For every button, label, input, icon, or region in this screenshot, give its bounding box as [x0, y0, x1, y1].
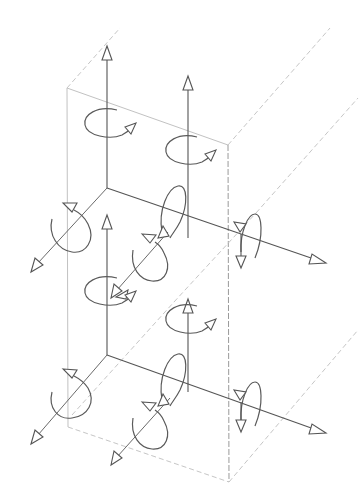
- upper-col2-out-axis: [117, 232, 168, 290]
- arrow-right-icon: [309, 424, 326, 434]
- back-edge-bottom-left-b: [256, 98, 358, 213]
- upper-translation-right-axis: [107, 188, 314, 259]
- arrow-up-icon: [183, 76, 193, 90]
- back-edge-top-right: [228, 28, 330, 145]
- arrow-up-icon: [102, 46, 112, 60]
- diagram-canvas: [0, 0, 364, 501]
- upper-rotation-out-arc: [51, 210, 91, 252]
- lower-col2-rotation-out-arc: [132, 410, 167, 449]
- lower-node-triad: [31, 215, 326, 444]
- back-edge-bottom-left-a: [72, 302, 174, 415]
- lower-translation-out-axis: [38, 355, 107, 435]
- rotation-arrowhead-icon: [142, 234, 156, 243]
- rotation-arrowhead-icon: [158, 394, 169, 406]
- arrow-up-icon: [102, 215, 112, 229]
- back-edge-top-left: [67, 28, 120, 88]
- upper-col2-rotation-out-arc: [132, 242, 167, 281]
- arrow-right-small-icon: [234, 390, 246, 400]
- rotation-arrowhead-icon: [142, 402, 156, 411]
- arrow-down-left-icon: [31, 430, 43, 444]
- arrow-right-icon: [309, 254, 326, 264]
- upper-col2-rotation-vertical-arc: [166, 136, 213, 164]
- arrow-right-small-icon: [234, 222, 246, 232]
- front-face-right-edge: [228, 145, 229, 482]
- upper-node-triad: [31, 46, 326, 272]
- lower-edge-rotation: [234, 382, 261, 432]
- front-face-bottom-edge: [68, 427, 229, 482]
- dof-diagram: [0, 0, 364, 501]
- arrow-down-icon: [236, 256, 246, 268]
- lower-col2-out-axis: [117, 398, 170, 457]
- upper-rotation-vertical-arc: [85, 109, 133, 137]
- lower-node-column-2: [111, 299, 216, 465]
- lower-translation-right-axis: [107, 355, 314, 429]
- arrow-down-icon: [236, 420, 246, 432]
- arrow-up-icon: [183, 299, 193, 313]
- upper-edge-rotation-arc: [241, 214, 261, 258]
- front-face-left-edge: [67, 88, 68, 427]
- front-face-top-edge: [67, 88, 228, 145]
